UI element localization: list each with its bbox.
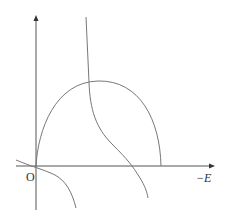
- diagram-canvas: [0, 0, 227, 222]
- hyperbola-upper-curve: [86, 17, 148, 198]
- hyperbola-lower-curve: [16, 160, 76, 208]
- x-axis-label: −E: [196, 171, 211, 186]
- x-axis-arrow-icon: [209, 164, 215, 169]
- origin-label: O: [26, 170, 35, 185]
- arc-curve: [36, 81, 161, 166]
- y-axis-arrow-icon: [34, 15, 39, 21]
